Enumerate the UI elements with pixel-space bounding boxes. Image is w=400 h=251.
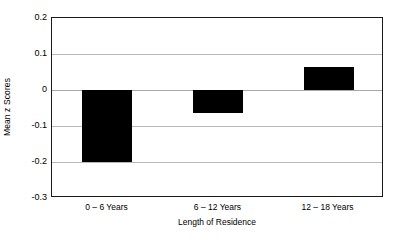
bar-chart: Mean z Scores 0.20.10-0.1-0.2-0.3 0 – 6 … <box>0 0 400 251</box>
y-tick-label: 0 <box>1 85 47 94</box>
x-tick-label: 6 – 12 Years <box>162 201 273 213</box>
plot-area <box>51 17 383 197</box>
bar <box>82 90 132 162</box>
gridline <box>52 162 382 163</box>
y-tick-label: -0.3 <box>1 193 47 202</box>
x-tick-label: 0 – 6 Years <box>51 201 162 213</box>
x-axis-title: Length of Residence <box>51 216 383 228</box>
y-tick-label: -0.1 <box>1 121 47 130</box>
gridline <box>52 54 382 55</box>
y-tick-label: 0.1 <box>1 49 47 58</box>
bar <box>304 67 354 90</box>
bar <box>193 90 243 113</box>
y-axis-tick-labels: 0.20.10-0.1-0.2-0.3 <box>0 17 47 197</box>
plot-inner <box>52 18 382 196</box>
y-tick-label: 0.2 <box>1 13 47 22</box>
x-tick-label: 12 – 18 Years <box>272 201 383 213</box>
x-axis-tick-labels: 0 – 6 Years6 – 12 Years12 – 18 Years <box>51 201 383 215</box>
y-tick-label: -0.2 <box>1 157 47 166</box>
